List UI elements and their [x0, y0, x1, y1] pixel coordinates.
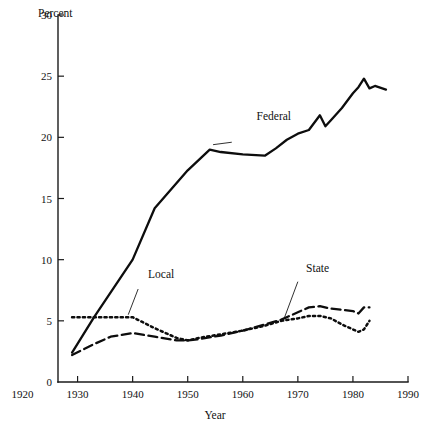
x-tick-label: 1980 — [342, 388, 365, 400]
series-line-federal — [72, 79, 386, 353]
chart-container: 051015202530 192019301940195019601970198… — [0, 0, 424, 425]
y-tick-label: 15 — [41, 193, 53, 205]
series-label-local: Local — [148, 268, 174, 280]
x-tick-label: 1960 — [232, 388, 255, 400]
y-tick-label: 0 — [47, 376, 53, 388]
x-tick-label: 1920 — [12, 388, 35, 400]
x-axis-title: Year — [204, 409, 225, 421]
x-tick-label: 1940 — [122, 388, 145, 400]
leader-line-state — [285, 282, 298, 317]
series-label-state: State — [306, 262, 329, 274]
x-axis: 19201930194019501960197019801990 — [12, 376, 420, 400]
line-chart: 051015202530 192019301940195019601970198… — [0, 0, 424, 425]
series-annotations: FederalLocalState — [128, 110, 329, 317]
y-tick-label: 20 — [41, 131, 53, 143]
leader-line-local — [128, 289, 138, 315]
y-tick-label: 5 — [47, 315, 53, 327]
series-lines — [72, 79, 386, 355]
y-axis-title: Percent — [38, 7, 73, 19]
series-label-federal: Federal — [257, 110, 291, 122]
series-line-state — [72, 306, 369, 355]
y-tick-label: 10 — [41, 254, 53, 266]
x-tick-label: 1950 — [177, 388, 200, 400]
x-tick-label: 1970 — [287, 388, 310, 400]
y-tick-label: 25 — [41, 70, 53, 82]
x-tick-label: 1930 — [67, 388, 90, 400]
leader-line-federal — [213, 142, 232, 144]
y-axis: 051015202530 — [41, 9, 64, 388]
x-tick-label: 1990 — [397, 388, 420, 400]
